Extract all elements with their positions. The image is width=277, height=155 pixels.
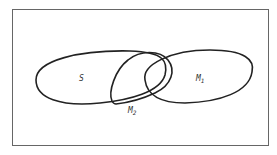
universe-frame	[13, 10, 269, 146]
venn-diagram: S M1 M2	[0, 0, 277, 155]
set-s-label: S	[79, 74, 84, 83]
set-m1-label: M1	[195, 74, 204, 84]
set-m2-label: M2	[127, 106, 137, 116]
